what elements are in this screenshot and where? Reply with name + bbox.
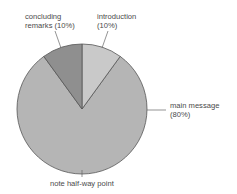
label-concluding-remarks: concluding remarks (10%) [25,12,75,30]
label-line: introduction [97,12,136,21]
label-line: main message [170,101,219,110]
annotation-half-way-point: note half-way point [50,179,114,188]
label-line: (80%) [170,110,219,119]
leader-line-concluding [55,31,61,48]
label-main-message: main message (80%) [170,101,219,119]
label-line: (10%) [97,21,136,30]
label-line: concluding [25,12,75,21]
label-line: remarks (10%) [25,21,75,30]
label-introduction: introduction (10%) [97,12,136,30]
leader-line-introduction [102,31,108,48]
